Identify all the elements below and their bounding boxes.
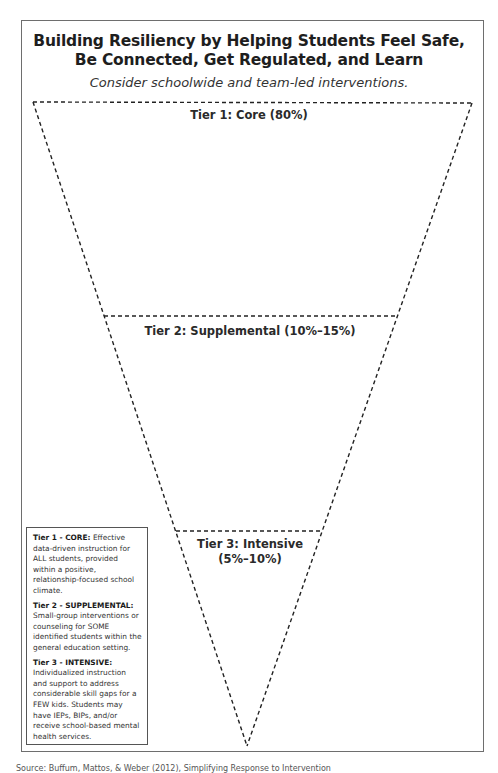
tier2-label: Tier 2: Supplemental (10%–15%) [120,324,380,339]
legend-tier3: Tier 3 - INTENSIVE: Individualized instr… [33,658,142,743]
tier3-label: Tier 3: Intensive (5%–10%) [190,537,310,567]
legend-tier3-text: Individualized instruction and support t… [33,668,139,741]
legend-tier1-heading: Tier 1 - CORE: [33,533,91,542]
source-footer: Source: Buffum, Mattos, & Weber (2012), … [16,764,331,773]
legend-tier3-heading: Tier 3 - INTENSIVE: [33,658,112,667]
tier1-label: Tier 1: Core (80%) [149,108,349,123]
legend-tier2: Tier 2 - SUPPLEMENTAL: Small-group inter… [33,601,142,654]
tier3-label-line1: Tier 3: Intensive [190,537,310,552]
legend-tier2-heading: Tier 2 - SUPPLEMENTAL: [33,601,134,610]
legend-tier2-text: Small-group interventions or counseling … [33,611,142,652]
legend-tier1: Tier 1 - CORE: Effective data-driven ins… [33,533,142,597]
tier3-label-line2: (5%–10%) [190,552,310,567]
pyramid-right-edge [247,103,472,746]
legend-tier1-text: Effective data-driven instruction for AL… [33,533,134,595]
tier-legend-box: Tier 1 - CORE: Effective data-driven ins… [26,527,148,745]
pyramid-top-edge [33,102,472,103]
